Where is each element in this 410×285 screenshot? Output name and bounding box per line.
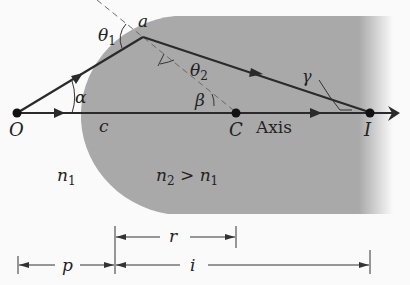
label-point-C: C <box>229 119 243 140</box>
point-O <box>13 109 22 118</box>
refraction-diagram: θ1 a θ2 α β γ O c C Axis I n1 n2 > n1 r … <box>0 0 410 285</box>
dimension-i: i <box>190 255 195 275</box>
point-C <box>232 109 241 118</box>
point-I <box>366 109 375 118</box>
label-point-a: a <box>138 11 148 31</box>
label-theta1: θ1 <box>98 25 116 48</box>
label-n1: n1 <box>57 165 76 188</box>
label-alpha: α <box>75 87 87 107</box>
label-axis: Axis <box>255 117 292 137</box>
label-gamma: γ <box>302 67 312 86</box>
label-beta: β <box>194 90 205 110</box>
label-n2-gt-n1: n2 > n1 <box>156 165 218 188</box>
dimension-p: p <box>62 255 73 275</box>
dimension-r: r <box>169 226 178 246</box>
label-point-O: O <box>9 119 24 140</box>
label-c: c <box>99 116 109 136</box>
label-point-I: I <box>363 119 372 140</box>
